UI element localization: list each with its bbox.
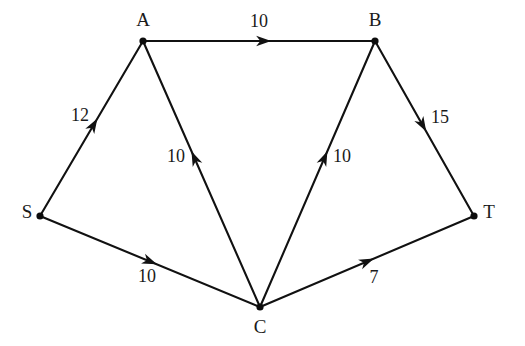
labels-group: 1210151071010SABCT: [22, 9, 495, 337]
nodes-group: [36, 37, 477, 310]
edge-c-a[interactable]: [143, 41, 260, 307]
arrowheads-group: [85, 36, 426, 269]
edge-capacity-s-c: 10: [138, 266, 156, 286]
node-c[interactable]: [256, 303, 263, 310]
edge-capacity-s-a: 12: [71, 105, 89, 125]
edge-capacity-b-t: 15: [431, 107, 449, 127]
node-label-b: B: [369, 9, 382, 30]
arrowhead-b-t-icon: [414, 116, 426, 132]
network-graph-canvas: 1210151071010SABCT: [0, 0, 525, 346]
edge-capacity-c-t: 7: [370, 267, 379, 287]
edge-s-a[interactable]: [40, 41, 143, 216]
network-diagram: 1210151071010SABCT: [0, 0, 525, 346]
node-s[interactable]: [36, 212, 43, 219]
node-b[interactable]: [371, 37, 378, 44]
node-t[interactable]: [470, 212, 477, 219]
node-label-a: A: [136, 9, 150, 30]
node-label-s: S: [22, 201, 33, 222]
edge-c-b[interactable]: [260, 41, 375, 307]
edge-capacity-a-b: 10: [250, 11, 268, 31]
edge-capacity-c-a: 10: [167, 146, 185, 166]
node-label-c: C: [254, 316, 267, 337]
node-label-t: T: [483, 201, 495, 222]
edge-capacity-c-b: 10: [333, 146, 351, 166]
node-a[interactable]: [139, 37, 146, 44]
edges-group: [40, 41, 474, 307]
